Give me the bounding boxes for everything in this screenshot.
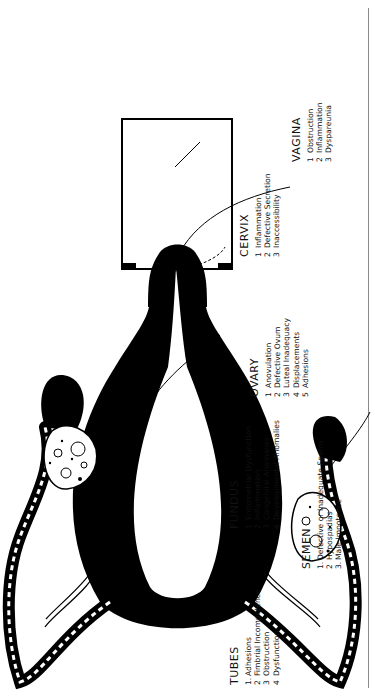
cervix-label-block: CERVIX 1Inflammation 2Defective Secretio… <box>238 173 282 257</box>
vagina-leader <box>175 142 200 167</box>
cervix-item: 1Inflammation <box>254 173 263 257</box>
tubes-item: 3Obstruction <box>262 589 271 685</box>
cervix-item: 3Inaccessibility <box>272 173 281 257</box>
ovary-item: 1Anovulation <box>264 318 273 397</box>
fundus-label-block: FUNDUS 1Endometrial Dysfunction 2Inflamm… <box>228 420 281 529</box>
cervix-title: CERVIX <box>238 173 251 257</box>
ovary-label-block: OVARY 1Anovulation 2Defective Ovum 3Lute… <box>248 318 310 397</box>
vagina-item: 1Obstruction <box>306 103 315 162</box>
tubes-item: 4Dysfunction <box>272 589 281 685</box>
semen-item: 1.Defective or Inadequate Sperm <box>316 441 325 569</box>
semen-title: SEMEN <box>300 441 313 569</box>
fundus-item: 4Developmental Anomalies <box>272 420 281 529</box>
semen-item: 2Hypospadias <box>325 441 334 569</box>
tubes-item: 1.Adhesions <box>244 589 253 685</box>
tubes-label-block: TUBES 1.Adhesions 2Fimbrial Incompetence… <box>228 589 281 685</box>
vagina-title: VAGINA <box>290 103 303 162</box>
semen-label-block: SEMEN 1.Defective or Inadequate Sperm 2H… <box>300 441 344 569</box>
vagina-item: 3Dyspareunia <box>324 103 333 162</box>
tubes-title: TUBES <box>228 589 241 685</box>
fimbria-upper <box>41 375 84 432</box>
diagram-canvas: OVARY 1Anovulation 2Defective Ovum 3Lute… <box>0 0 375 697</box>
fundus-item: 3Congenital Anomalies <box>262 420 271 529</box>
fundus-item: 2Inflammation <box>253 420 262 529</box>
vagina-item: 2Inflammation <box>315 103 324 162</box>
tubes-item: 2Fimbrial Incompetence <box>253 589 262 685</box>
ovary-item: 5Adhesions <box>301 318 310 397</box>
fundus-item: 1Endometrial Dysfunction <box>244 420 253 529</box>
ovary-title: OVARY <box>248 318 261 397</box>
ovary-item: 4Displacements <box>292 318 301 397</box>
ovary-item: 2Defective Ovum <box>273 318 282 397</box>
ovary-item: 3Luteal Inadequacy <box>282 318 291 397</box>
fundus-title: FUNDUS <box>228 420 241 529</box>
vagina-label-block: VAGINA 1Obstruction 2Inflammation 3Dyspa… <box>290 103 334 162</box>
cervix-item: 2Defective Secretion <box>263 173 272 257</box>
semen-item: 3.Male Impotence <box>334 441 343 569</box>
